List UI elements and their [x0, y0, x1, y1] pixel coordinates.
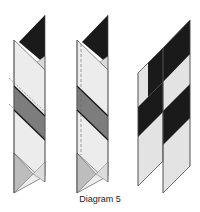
- figure-step-2: [77, 15, 108, 193]
- figure-step-3: [138, 20, 190, 193]
- figure-step-1: [9, 15, 45, 193]
- diagram-caption: Diagram 5: [0, 194, 200, 204]
- diagram-5-illustration: [0, 0, 200, 212]
